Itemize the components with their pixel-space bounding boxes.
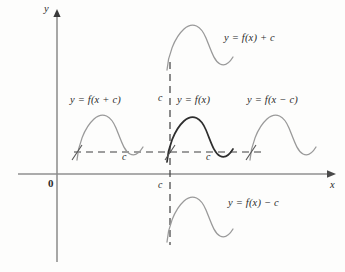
function-translation-figure: y x 0 y = f(x) + c y = f(x + c) y = f(x)… (0, 0, 345, 272)
label-shift-left: y = f(x + c) (70, 95, 121, 106)
c-marker-horizontal-right: c (206, 152, 211, 162)
y-axis (53, 9, 60, 262)
c-marker-vertical-up: c (158, 93, 163, 103)
x-axis-label: x (330, 180, 335, 191)
origin-label: 0 (48, 178, 54, 189)
curve-shift-left (77, 115, 143, 160)
curve-base (167, 117, 233, 162)
label-shift-up: y = f(x) + c (224, 33, 275, 44)
c-marker-horizontal-left: c (122, 152, 127, 162)
label-shift-right: y = f(x − c) (247, 95, 298, 106)
curve-shift-right (250, 115, 316, 160)
c-marker-vertical-down: c (158, 180, 163, 190)
x-axis (18, 170, 336, 178)
curve-shift-down (167, 197, 233, 242)
figure-canvas (0, 0, 345, 272)
y-axis-label: y (44, 4, 49, 15)
label-base: y = f(x) (177, 95, 210, 106)
label-shift-down: y = f(x) − c (228, 198, 279, 209)
